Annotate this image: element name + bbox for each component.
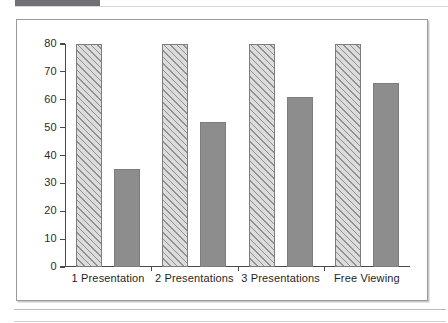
y-axis-tick-label-text: 60 [31,93,57,105]
bar-series-layer [65,44,410,267]
y-axis-tick-label-text: 40 [31,149,57,161]
y-axis-tick-label-text: 50 [31,121,57,133]
y-axis-tick-label: 10 [25,232,57,244]
y-axis-tick-label: 30 [25,176,57,188]
page-footer-rule-top [14,309,446,310]
x-axis-category-label: 2 Presentations [151,272,237,284]
y-axis-tick-label: 20 [25,204,57,216]
y-axis-tick-label-text: 30 [31,176,57,188]
y-axis-tick-label-text: 80 [31,37,57,49]
bar-hatched [335,44,361,267]
bar-hatched [162,44,188,267]
x-axis-category-label: Free Viewing [324,272,410,284]
bar-solid [200,122,226,267]
y-axis-tick-label: 60 [25,93,57,105]
bar-hatched [249,44,275,267]
page-header-rule [15,6,448,7]
chart-plot-area: 80706050403020100 1 Presentation2 Presen… [17,20,429,302]
x-axis-category-label: 3 Presentations [238,272,324,284]
chart-figure-frame: 80706050403020100 1 Presentation2 Presen… [16,19,428,301]
y-axis-tick-label-text: 10 [31,232,57,244]
x-axis-category-label: 1 Presentation [65,272,151,284]
y-axis-tick-label: 80 [25,37,57,49]
y-axis-tick-label-text: 70 [31,65,57,77]
y-axis-tick-label-text: 0 [31,260,57,272]
y-axis-tick-label: 50 [25,121,57,133]
bar-solid [287,97,313,267]
y-axis-tick-label-text: 20 [31,204,57,216]
y-axis-tick-label: 70 [25,65,57,77]
bar-solid [114,169,140,267]
bar-hatched [76,44,102,267]
y-axis-tick-label: 0 [25,260,57,272]
page-footer-rule-bottom [14,321,446,322]
y-axis-tick-label: 40 [25,149,57,161]
bar-solid [373,83,399,267]
